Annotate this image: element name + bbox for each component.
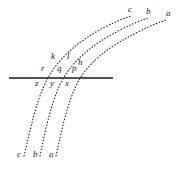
label-bottom-a: a <box>49 150 54 159</box>
label-z: z <box>35 79 39 88</box>
label-top-b: b <box>146 7 151 16</box>
label-q: q <box>57 64 62 73</box>
label-l: l <box>67 52 70 61</box>
label-x: x <box>65 79 69 88</box>
label-top-a: a <box>166 9 171 18</box>
label-y: y <box>50 79 54 88</box>
label-h: h <box>78 58 83 67</box>
figure-canvas <box>0 0 185 172</box>
label-r: r <box>41 64 45 73</box>
label-top-c: c <box>128 5 132 14</box>
geometry-figure: c b a k l h r q p z y x c b a <box>0 0 185 172</box>
label-bottom-c: c <box>17 150 21 159</box>
label-p: p <box>72 64 77 73</box>
curve-b <box>40 18 148 156</box>
curve-group <box>24 16 166 156</box>
label-k: k <box>51 52 55 61</box>
label-bottom-b: b <box>33 150 38 159</box>
curve-a <box>56 20 166 156</box>
curve-c <box>24 16 131 156</box>
